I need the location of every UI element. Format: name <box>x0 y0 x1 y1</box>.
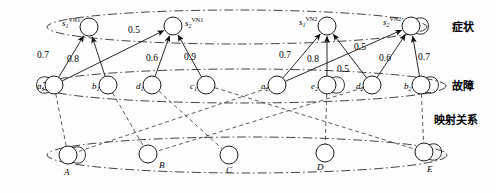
node-label-E: E <box>426 164 433 174</box>
node-label-sub-s1v1: 1 <box>66 23 69 29</box>
node-label-base-C: C <box>226 165 233 175</box>
node-label-base-E: E <box>426 164 433 174</box>
layer-name-fault: 故障 <box>452 79 474 93</box>
node-label-s2v2: s2VN2 <box>383 16 401 28</box>
node-label-d2: d2 <box>356 81 364 92</box>
layer-name-symptom: 症状 <box>452 20 475 34</box>
node-s1v1[interactable] <box>80 18 98 36</box>
node-label-sub-s2v2: 2 <box>387 22 390 28</box>
node-label-c1: c1 <box>190 81 197 92</box>
node-A[interactable] <box>59 146 77 164</box>
node-d2[interactable] <box>363 76 381 94</box>
node-label-b1: b1 <box>92 81 100 92</box>
node-b1[interactable] <box>99 76 117 94</box>
node-label-s1v1: s1VN1 <box>62 17 80 29</box>
node-E[interactable] <box>415 143 433 161</box>
node-label-sub-d2: 2 <box>361 86 364 92</box>
node-label-B: B <box>159 160 165 170</box>
node-label-a2: a2 <box>261 81 269 92</box>
node-label-s2v1: s2VN1 <box>185 17 203 29</box>
diagram-canvas: 0.70.80.50.60.90.70.80.50.50.60.7 s1VN1s… <box>0 0 496 193</box>
node-B[interactable] <box>139 145 157 163</box>
mapping-edge-d2-to-B <box>157 88 364 152</box>
node-label-A: A <box>63 167 70 177</box>
edge-weight-d1-to-s2v1: 0.6 <box>146 53 158 63</box>
edge-weight-d2-to-s2v2: 0.6 <box>379 53 391 63</box>
edge-weight-a2-to-s2v2: 0.5 <box>354 42 366 52</box>
diagram-root: 0.70.80.50.60.90.70.80.50.50.60.7 s1VN1s… <box>0 0 496 193</box>
node-label-sub-b1: 1 <box>97 86 100 92</box>
mapping-edge-b1-to-B <box>113 93 144 146</box>
node-label-C: C <box>226 165 233 175</box>
edge-weight-b2-to-s2v2: 0.7 <box>418 52 430 62</box>
edge-weight-d2-to-s1v2: 0.5 <box>337 64 349 74</box>
node-a2[interactable] <box>268 76 286 94</box>
node-a1[interactable] <box>45 76 63 94</box>
node-label-sup-s2v2: VN2 <box>390 16 402 22</box>
node-e2[interactable] <box>318 76 336 94</box>
node-label-sub-s1v2: 1 <box>303 22 306 28</box>
layer-boundaries <box>40 10 447 173</box>
node-label-sub-d1: 1 <box>141 86 144 92</box>
node-label-sub-c1: 1 <box>194 86 197 92</box>
node-label-sub-s2v1: 2 <box>189 23 192 29</box>
edge-weight-c1-to-s2v1: 0.9 <box>184 52 196 62</box>
layer-name-mapping: 映射关系 <box>434 113 478 127</box>
node-label-base-D: D <box>316 162 324 172</box>
node-label-sub-e2: 2 <box>315 86 318 92</box>
node-label-D: D <box>316 162 324 172</box>
weighted-edges-group <box>59 30 420 81</box>
node-c1[interactable] <box>197 76 215 94</box>
node-s2v2[interactable] <box>402 17 420 35</box>
node-d1[interactable] <box>143 76 161 94</box>
node-label-sup-s1v1: VN1 <box>69 17 81 23</box>
node-b2[interactable] <box>412 76 430 94</box>
node-label-e2: e2 <box>311 81 318 92</box>
node-s2v1[interactable] <box>164 17 182 35</box>
node-label-base-B: B <box>159 160 165 170</box>
edge-weight-a1-to-s1v1: 0.7 <box>37 50 49 60</box>
weighted-edge-b1-to-s1v1 <box>92 37 105 76</box>
mapping-edge-b2-to-E <box>421 94 423 143</box>
edge-weight-a1-to-s2v1: 0.5 <box>128 25 140 35</box>
node-label-b2: b2 <box>404 81 412 92</box>
node-C[interactable] <box>220 146 238 164</box>
node-s1v2[interactable] <box>318 17 336 35</box>
node-D[interactable] <box>316 144 334 162</box>
mapping-edge-d1-to-C <box>159 91 223 149</box>
edge-weight-a2-to-s1v2: 0.7 <box>279 50 291 60</box>
layer-name-labels-group: 症状故障映射关系 <box>434 20 478 127</box>
node-label-sup-s2v1: VN1 <box>192 17 204 23</box>
symptom-ellipse <box>47 10 427 44</box>
edge-weight-e2-to-s1v2: 0.8 <box>307 54 319 64</box>
mapping-edge-c1-to-E <box>215 88 416 150</box>
mapping-edges-group <box>56 88 424 152</box>
node-label-base-A: A <box>63 167 70 177</box>
node-label-sub-a1: 1 <box>42 86 45 92</box>
mapping-ellipse <box>47 137 447 173</box>
node-label-s1v2: s1VN2 <box>299 16 317 28</box>
mapping-edge-a1-to-A <box>56 94 66 146</box>
node-label-sup-s1v2: VN2 <box>306 16 318 22</box>
node-label-d1: d1 <box>136 81 144 92</box>
node-label-sub-a2: 2 <box>266 86 269 92</box>
edge-weight-b1-to-s1v1: 0.8 <box>67 54 79 64</box>
node-label-sub-b2: 2 <box>409 86 412 92</box>
